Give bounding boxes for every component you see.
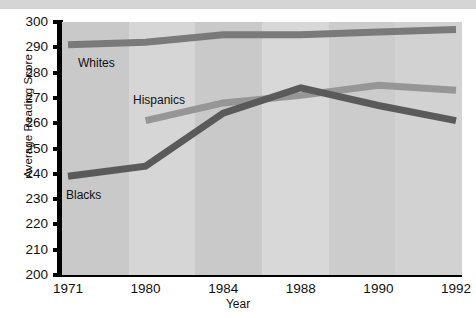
top-decorative-band [0,0,476,9]
y-tick-label: 210 [4,243,48,257]
y-tick-label: 290 [4,40,48,54]
y-tick-label: 270 [4,91,48,105]
x-tick-label: 1990 [363,281,393,296]
y-tick-label: 240 [4,167,48,181]
x-tick-label: 1988 [286,281,316,296]
series-label-hispanics: Hispanics [133,93,185,107]
y-axis-ticks: 300290280270260250240230220210200 [0,0,62,318]
y-tick-label: 220 [4,217,48,231]
x-tick-label: 1971 [53,281,83,296]
y-tick-label: 230 [4,192,48,206]
x-tick-label: 1984 [208,281,238,296]
x-tick-label: 1980 [131,281,161,296]
plot-area [62,22,462,275]
series-line-whites [68,30,456,45]
x-axis-title: Year [0,297,476,311]
y-tick-label: 200 [4,268,48,282]
x-tick-label: 1992 [441,281,471,296]
series-label-whites: Whites [78,56,115,70]
y-tick-label: 260 [4,116,48,130]
y-tick-label: 250 [4,142,48,156]
series-label-blacks: Blacks [66,188,101,202]
series-lines [62,22,462,275]
series-line-blacks [68,88,456,177]
y-tick-label: 280 [4,66,48,80]
reading-score-line-chart: Average Reading Score 300290280270260250… [0,0,476,318]
y-tick-label: 300 [4,15,48,29]
